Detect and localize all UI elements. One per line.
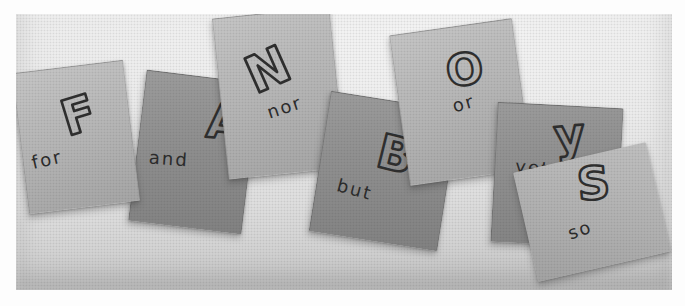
svg-text:y: y: [552, 106, 587, 163]
word-for: for: [30, 146, 65, 173]
fanboys-photo: F for A and N nor B but O or: [16, 14, 672, 290]
bubble-letter-s: S: [565, 155, 621, 211]
page: F for A and N nor B but O or: [0, 0, 685, 306]
bubble-letter-f: F: [43, 80, 113, 150]
sticky-note-f: F for: [16, 60, 140, 215]
svg-text:O: O: [443, 41, 487, 97]
word-so: so: [565, 216, 595, 244]
svg-text:F: F: [54, 83, 103, 147]
word-and: and: [148, 147, 189, 171]
bubble-letter-o: O: [436, 41, 492, 97]
svg-text:S: S: [575, 156, 612, 212]
word-or: or: [450, 90, 477, 116]
word-but: but: [335, 174, 375, 204]
